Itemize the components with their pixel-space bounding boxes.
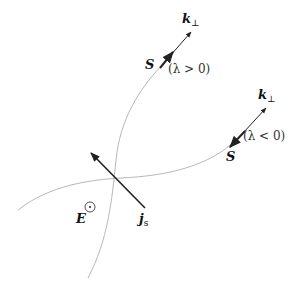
label-k-perp-right: k⊥: [258, 88, 275, 101]
diagram-svg: [0, 0, 296, 291]
label-k-perp-top: k⊥: [182, 12, 199, 25]
label-e-field: E: [76, 212, 86, 225]
label-lambda-negative: (λ < 0): [243, 130, 285, 142]
curve-trajectory-2: [18, 140, 236, 210]
curve-trajectory-1: [88, 63, 164, 278]
current-arrow: [91, 153, 145, 208]
label-current: js: [139, 212, 148, 225]
label-spin-top: S: [145, 58, 154, 71]
diagram-canvas: k⊥ S (λ > 0) k⊥ (λ < 0) S E js: [0, 0, 296, 291]
label-lambda-positive: (λ > 0): [168, 63, 210, 75]
label-spin-right: S: [226, 150, 235, 163]
e-field-out-of-page-icon: [85, 202, 95, 212]
